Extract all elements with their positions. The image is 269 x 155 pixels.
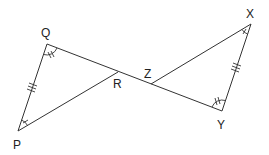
label-Y: Y	[217, 118, 225, 132]
label-X: X	[246, 7, 254, 21]
segment-PR	[18, 72, 118, 131]
angle-mark-P	[22, 120, 29, 126]
segment-ZX	[151, 24, 251, 84]
label-P: P	[13, 138, 21, 152]
label-Z: Z	[144, 67, 151, 81]
angle-mark-X	[242, 29, 248, 34]
triple-tick-XY	[231, 63, 241, 72]
segment-QY	[47, 44, 222, 111]
label-R: R	[113, 77, 122, 91]
label-Q: Q	[41, 26, 50, 40]
congruent-triangles-diagram: Q P R Z X Y	[0, 0, 269, 155]
triple-tick-PQ	[27, 83, 37, 92]
